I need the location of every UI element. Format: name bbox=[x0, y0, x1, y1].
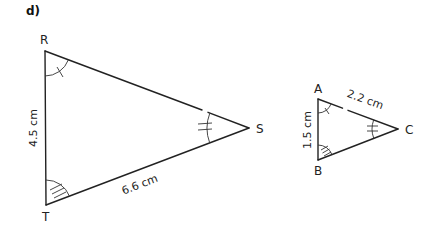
triangle-rst: R S T 4.5 cm 6.6 cm bbox=[27, 33, 264, 224]
angle-mark-c bbox=[367, 120, 378, 138]
measure-ts: 6.6 cm bbox=[120, 172, 160, 198]
angle-mark-r bbox=[45, 60, 68, 77]
side-ts bbox=[46, 128, 249, 205]
vertex-label-c: C bbox=[405, 123, 413, 137]
measure-rt: 4.5 cm bbox=[27, 109, 40, 147]
measure-ac: 2.2 cm bbox=[345, 87, 385, 112]
similar-triangles-diagram: d) R S T 4.5 cm 6.6 bbox=[0, 0, 431, 228]
side-rs bbox=[45, 51, 202, 110]
side-bc bbox=[318, 129, 398, 160]
vertex-label-a: A bbox=[314, 82, 323, 96]
side-ac bbox=[318, 99, 343, 108]
angle-mark-s bbox=[198, 113, 212, 143]
side-rs-segment bbox=[208, 112, 249, 128]
triangle-abc: A B C 1.5 cm 2.2 cm bbox=[301, 82, 413, 178]
angle-mark-t bbox=[46, 180, 69, 198]
vertex-label-t: T bbox=[41, 210, 50, 224]
vertex-label-r: R bbox=[40, 33, 48, 47]
side-rt bbox=[45, 51, 46, 205]
measure-ab: 1.5 cm bbox=[301, 111, 314, 149]
vertex-label-b: B bbox=[314, 164, 322, 178]
angle-mark-a bbox=[318, 104, 331, 114]
part-label: d) bbox=[26, 4, 40, 18]
angle-mark-b bbox=[318, 145, 332, 156]
vertex-label-s: S bbox=[256, 122, 264, 136]
